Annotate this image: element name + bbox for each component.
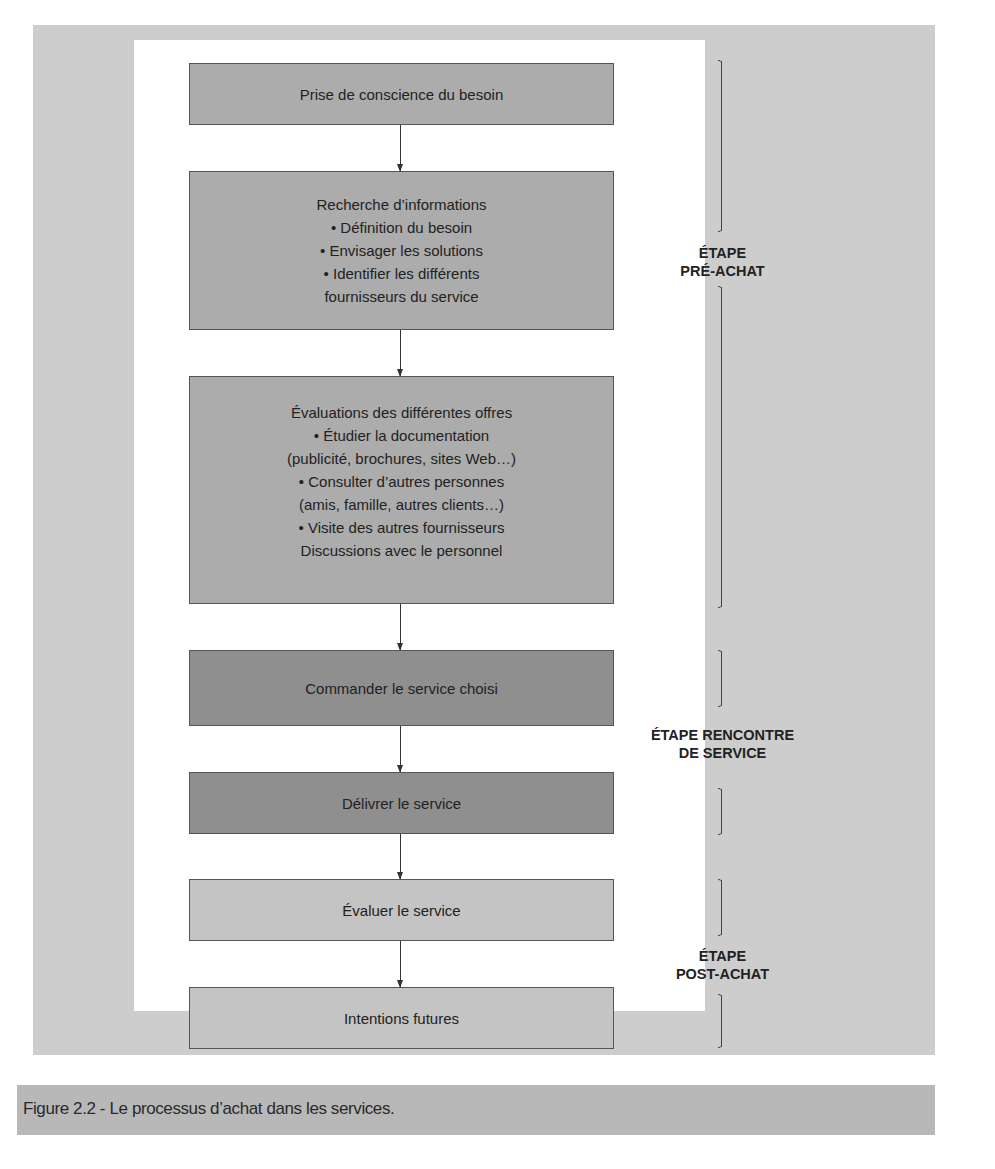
step-bullet: Discussions avec le personnel <box>301 539 503 562</box>
step-bullet: fournisseurs du service <box>324 285 478 308</box>
step-title: Évaluer le service <box>342 899 460 922</box>
brace-pre-purchase-top <box>713 61 722 231</box>
step-title: Intentions futures <box>344 1007 459 1030</box>
figure-caption: Figure 2.2 - Le processus d’achat dans l… <box>23 1099 394 1119</box>
brace-pre-purchase-bottom <box>713 287 722 607</box>
step-bullet: • Identifier les différents <box>324 262 480 285</box>
arrow-down-icon <box>400 834 401 879</box>
stage-label-post-purchase: ÉTAPE POST-ACHAT <box>660 947 785 983</box>
step-bullet: (publicité, brochures, sites Web…) <box>287 447 516 470</box>
brace-service-encounter-bottom <box>713 789 722 834</box>
arrow-down-icon <box>400 604 401 650</box>
stage-label-pre-purchase: ÉTAPE PRÉ-ACHAT <box>660 244 785 280</box>
step-title: Prise de conscience du besoin <box>300 83 503 106</box>
step-deliver-service: Délivrer le service <box>189 772 614 834</box>
arrow-down-icon <box>400 941 401 987</box>
brace-post-purchase-bottom <box>713 995 722 1047</box>
brace-service-encounter-top <box>713 651 722 706</box>
step-title: Recherche d’informations <box>316 193 486 216</box>
step-offer-evaluation: Évaluations des différentes offres • Étu… <box>189 376 614 604</box>
step-title: Commander le service choisi <box>305 677 498 700</box>
step-bullet: • Étudier la documentation <box>314 424 489 447</box>
step-bullet: • Consulter d’autres personnes <box>299 470 504 493</box>
step-bullet: • Envisager les solutions <box>320 239 483 262</box>
step-order-service: Commander le service choisi <box>189 650 614 726</box>
step-bullet: (amis, famille, autres clients…) <box>299 493 504 516</box>
step-evaluate-service: Évaluer le service <box>189 879 614 941</box>
arrow-down-icon <box>400 330 401 376</box>
arrow-down-icon <box>400 726 401 772</box>
step-bullet: • Définition du besoin <box>331 216 472 239</box>
step-title: Délivrer le service <box>342 792 461 815</box>
step-future-intentions: Intentions futures <box>189 987 614 1049</box>
step-information-search: Recherche d’informations • Définition du… <box>189 171 614 330</box>
step-title: Évaluations des différentes offres <box>291 401 512 424</box>
arrow-down-icon <box>400 125 401 171</box>
step-bullet: • Visite des autres fournisseurs <box>299 516 505 539</box>
stage-label-service-encounter: ÉTAPE RENCONTRE DE SERVICE <box>630 726 815 762</box>
brace-post-purchase-top <box>713 880 722 935</box>
step-need-awareness: Prise de conscience du besoin <box>189 63 614 125</box>
